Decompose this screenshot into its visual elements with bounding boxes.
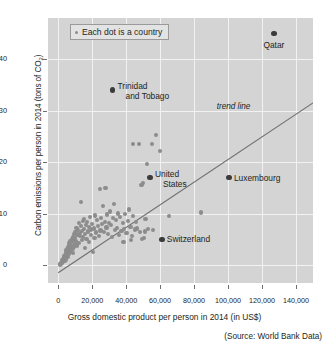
data-point-highlighted [271, 31, 276, 36]
y-tick-mark [43, 162, 47, 163]
data-point [112, 202, 116, 206]
y-tick-label: 0 [0, 260, 7, 269]
y-tick-mark [43, 59, 47, 60]
data-point [98, 187, 102, 191]
annotation-line: United [155, 169, 187, 179]
data-point [137, 142, 141, 146]
data-point [145, 162, 149, 166]
y-tick-label: 30 [0, 106, 7, 115]
data-point-highlighted [110, 87, 115, 92]
data-point [90, 222, 94, 226]
annotation-switzerland: Switzerland [167, 234, 210, 244]
x-tick-mark [194, 285, 195, 289]
trend-line-label: trend line [217, 102, 251, 112]
data-point [87, 240, 91, 244]
data-point [104, 225, 108, 229]
y-axis-title-suffix: ) [34, 55, 43, 58]
x-axis-title: Gross domestic product per person in 201… [0, 312, 329, 322]
x-tick-label: 140,000 [266, 296, 326, 305]
data-point [108, 209, 112, 213]
data-point [199, 210, 203, 214]
data-point [110, 235, 114, 239]
y-tick-label: 20 [0, 157, 7, 166]
y-tick-mark [43, 214, 47, 215]
legend-label: Each dot is a country [82, 27, 162, 37]
annotation-united-states: UnitedStates [155, 169, 187, 189]
y-axis-title: Carbon emissions per person in 2014 (ton… [34, 20, 45, 270]
y-tick-label: 40 [0, 54, 7, 63]
x-tick-mark [92, 285, 93, 289]
y-tick-mark [43, 265, 47, 266]
data-point [92, 236, 96, 240]
annotation-line: and Tobago [118, 91, 170, 101]
y-axis-title-text: Carbon emissions per person in 2014 (ton… [34, 61, 43, 237]
annotation-luxembourg: Luxembourg [234, 173, 281, 183]
annotation-line: Trinidad [118, 81, 170, 91]
source-note: (Source: World Bank Data) [0, 332, 322, 341]
x-tick-mark [58, 285, 59, 289]
data-point [158, 149, 162, 153]
legend: Each dot is a country [70, 24, 169, 40]
annotation-trinidad-and-tobago: Trinidadand Tobago [118, 81, 170, 101]
data-point [97, 234, 101, 238]
plot-area: QatarTrinidadand TobagoUnitedStatesLuxem… [48, 18, 313, 283]
data-point-highlighted [159, 237, 164, 242]
x-tick-mark [160, 285, 161, 289]
x-tick-mark [126, 285, 127, 289]
data-point [127, 207, 131, 211]
data-point-highlighted [226, 175, 231, 180]
data-point [150, 142, 154, 146]
data-point-highlighted [147, 175, 152, 180]
data-point [88, 215, 92, 219]
x-tick-mark [262, 285, 263, 289]
data-point [143, 229, 147, 233]
annotation-line: Luxembourg [234, 173, 281, 183]
chart-figure: Carbon emissions per person in 2014 (ton… [0, 0, 329, 359]
data-point [91, 250, 95, 254]
data-point [71, 251, 75, 255]
legend-dot-icon [75, 31, 78, 34]
annotation-line: Switzerland [167, 234, 210, 244]
data-point [79, 200, 83, 204]
x-tick-mark [296, 285, 297, 289]
annotation-line: States [155, 179, 187, 189]
data-point [167, 214, 171, 218]
annotation-line: Qatar [234, 40, 313, 50]
y-tick-label: 10 [0, 209, 7, 218]
data-point [124, 231, 128, 235]
x-tick-mark [228, 285, 229, 289]
y-tick-mark [43, 111, 47, 112]
data-point [143, 217, 147, 221]
annotation-qatar: Qatar [234, 40, 313, 50]
